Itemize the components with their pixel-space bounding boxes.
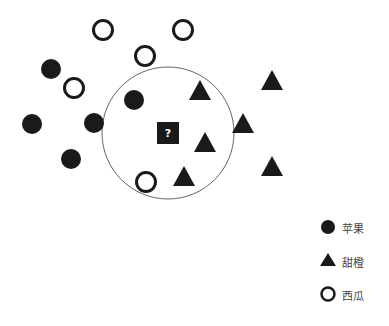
apple-point <box>84 113 104 133</box>
orange-point <box>261 70 283 90</box>
legend-icons <box>318 217 338 317</box>
query-label: ? <box>165 127 171 140</box>
watermelon-point <box>65 79 84 98</box>
orange-point <box>173 166 195 186</box>
watermelon-point <box>137 173 156 192</box>
orange-point <box>232 113 254 133</box>
orange-point <box>189 80 211 100</box>
orange-point <box>194 132 216 152</box>
filled-triangle-icon <box>320 253 336 266</box>
hollow-circle-icon <box>322 288 335 301</box>
watermelon-point <box>94 21 113 40</box>
filled-circle-icon <box>321 220 335 234</box>
legend-label-watermelon: 西瓜 <box>342 287 382 303</box>
apple-point <box>124 90 144 110</box>
apple-point <box>22 114 42 134</box>
apple-point <box>41 59 61 79</box>
watermelon-point <box>174 21 193 40</box>
legend-label-orange: 甜橙 <box>342 254 382 270</box>
apple-point <box>61 149 81 169</box>
watermelon-point <box>136 47 155 66</box>
orange-point <box>261 156 283 176</box>
legend-label-apple: 苹果 <box>342 220 382 236</box>
